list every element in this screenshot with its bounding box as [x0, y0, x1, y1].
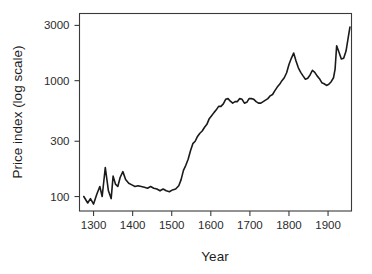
x-tick-label: 1900 [315, 219, 341, 231]
y-tick-label: 100 [50, 191, 69, 203]
y-axis-title: Price index (log scale) [10, 46, 25, 179]
x-tick-label: 1500 [159, 219, 185, 231]
y-tick-label: 3000 [44, 19, 70, 31]
y-axis-ticks: 10030010003000 [44, 19, 80, 202]
x-axis-ticks: 1300140015001600170018001900 [81, 211, 341, 231]
x-tick-label: 1600 [198, 219, 224, 231]
x-tick-label: 1300 [81, 219, 107, 231]
x-axis-title: Year [201, 249, 229, 264]
y-tick-label: 300 [50, 135, 69, 147]
x-tick-label: 1700 [237, 219, 263, 231]
plot-frame [80, 14, 352, 212]
chart-figure: 10030010003000 1300140015001600170018001… [0, 0, 372, 274]
price-index-line-chart: 10030010003000 1300140015001600170018001… [0, 0, 372, 274]
price-index-series [84, 27, 350, 204]
x-tick-label: 1800 [276, 219, 302, 231]
y-tick-label: 1000 [44, 75, 70, 87]
x-tick-label: 1400 [120, 219, 146, 231]
